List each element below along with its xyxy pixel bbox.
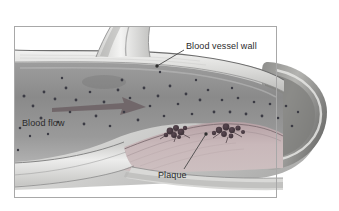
label-plaque: Plaque: [158, 170, 187, 180]
illustration-stage: Blood vessel wall Blood flow Plaque: [0, 0, 339, 211]
label-blood-vessel-wall: Blood vessel wall: [186, 41, 257, 51]
label-blood-flow: Blood flow: [22, 118, 65, 128]
lumen-shadow-blob: [82, 75, 126, 89]
vessel-wall-leader-dot: [155, 64, 158, 67]
plaque-leader-dot: [204, 132, 207, 135]
